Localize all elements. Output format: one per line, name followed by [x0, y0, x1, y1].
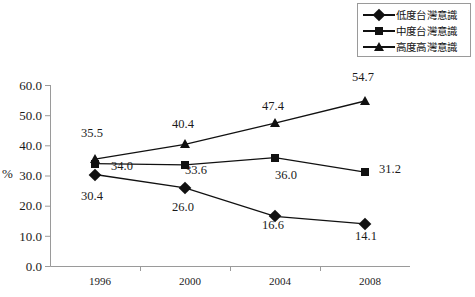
data-point-high-1996: [90, 154, 100, 163]
series-line-low: [95, 175, 365, 224]
x-tick-label-2004: 2004: [250, 276, 310, 287]
y-tick-label-50: 50.0: [0, 109, 42, 122]
y-tick-label-40: 40.0: [0, 139, 42, 152]
series-line-mid: [95, 158, 365, 173]
value-label-mid-2008: 31.2: [379, 163, 401, 176]
data-point-mid-2004: [271, 154, 279, 162]
value-label-mid-1996: 34.0: [111, 160, 133, 173]
y-tick-label-0: 0.0: [0, 260, 42, 273]
plot-area: [0, 0, 475, 297]
value-label-low-2008: 14.1: [355, 230, 377, 243]
line-chart: 低度台灣意識 中度台灣意識 高度高灣意識: [0, 0, 475, 297]
data-point-high-2004: [270, 118, 280, 127]
value-label-low-1996: 30.4: [81, 190, 103, 203]
value-label-high-1996: 35.5: [81, 127, 103, 140]
y-axis-ticks: [45, 86, 51, 267]
y-axis-unit-label: %: [2, 167, 13, 180]
x-axis-ticks: [141, 267, 321, 272]
value-label-high-2008: 54.7: [352, 71, 374, 84]
y-tick-label-20: 20.0: [0, 199, 42, 212]
data-point-mid-2008: [361, 168, 369, 176]
x-tick-label-2000: 2000: [160, 276, 220, 287]
data-point-high-2008: [360, 96, 370, 105]
y-tick-label-10: 10.0: [0, 230, 42, 243]
value-label-high-2000: 40.4: [172, 118, 194, 131]
data-point-mid-2000: [181, 161, 189, 169]
x-tick-label-2008: 2008: [340, 276, 400, 287]
series-line-high: [95, 101, 365, 159]
value-label-mid-2004: 36.0: [275, 169, 297, 182]
value-label-low-2000: 26.0: [172, 201, 194, 214]
x-tick-label-1996: 1996: [70, 276, 130, 287]
y-tick-label-60: 60.0: [0, 79, 42, 92]
value-label-high-2004: 47.4: [262, 100, 284, 113]
data-point-high-2000: [180, 139, 190, 148]
